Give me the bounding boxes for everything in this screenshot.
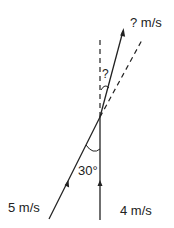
velocity-a-label: 5 m/s bbox=[8, 201, 40, 214]
given-angle-label: 30° bbox=[78, 164, 98, 177]
vector-diagram: ? m/s ? 30° 5 m/s 4 m/s bbox=[0, 0, 174, 228]
resultant-speed-label: ? m/s bbox=[130, 16, 162, 29]
velocity-b-label: 4 m/s bbox=[120, 204, 152, 217]
resultant-arrowhead-icon bbox=[120, 28, 125, 37]
diagram-lines bbox=[0, 0, 174, 228]
unknown-angle-label: ? bbox=[102, 68, 109, 80]
angle-arc-30 bbox=[86, 145, 100, 151]
velocity-b-arrow-icon bbox=[98, 180, 103, 186]
